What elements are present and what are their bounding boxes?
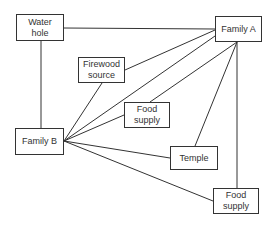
node-family-a: Family A: [215, 16, 262, 42]
edge-familyb-temple: [64, 141, 170, 158]
node-food-supply-middle: Food supply: [124, 102, 170, 128]
node-family-b: Family B: [15, 128, 64, 155]
node-label: Food supply: [219, 190, 253, 212]
edge-temple-familya: [195, 42, 237, 146]
node-label: Temple: [179, 153, 208, 164]
node-label: Firewood source: [80, 59, 124, 81]
node-label: Family B: [22, 136, 57, 147]
node-label: Water hole: [25, 17, 55, 39]
node-water-hole: Water hole: [16, 14, 64, 41]
edge-waterhole-familya: [64, 28, 215, 29]
node-food-supply-bottom: Food supply: [213, 188, 259, 214]
node-label: Food supply: [130, 104, 164, 126]
node-temple: Temple: [170, 146, 218, 170]
edge-firewood-familya: [125, 30, 215, 70]
node-label: Family A: [221, 24, 256, 35]
node-firewood-source: Firewood source: [78, 57, 125, 83]
